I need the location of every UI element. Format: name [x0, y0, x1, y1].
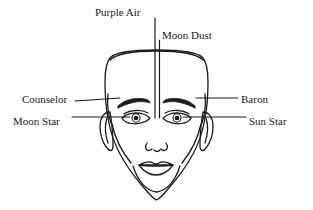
label-baron: Baron: [241, 93, 268, 105]
left-ear-inner: [106, 118, 108, 143]
counselor-pointer: [75, 98, 120, 101]
face-diagram-canvas: Purple Air Moon Dust Counselor Moon Star…: [0, 0, 313, 210]
left-pupil: [134, 116, 137, 119]
right-ear-inner: [205, 118, 207, 143]
right-eyebrow: [163, 98, 195, 108]
chin-contour: [133, 166, 180, 192]
nose-left-nostril: [146, 143, 153, 150]
head-outline: [105, 50, 208, 200]
left-eyebrow: [118, 98, 150, 108]
face-line-drawing: [0, 0, 313, 210]
label-purple-air: Purple Air: [95, 6, 141, 18]
nose-tip: [154, 150, 160, 152]
label-counselor: Counselor: [22, 93, 67, 105]
right-pupil: [175, 116, 178, 119]
upper-lip: [139, 162, 173, 165]
label-sun-star: Sun Star: [249, 115, 287, 127]
nose-right-nostril: [161, 143, 168, 150]
label-moon-dust: Moon Dust: [162, 29, 212, 41]
label-moon-star: Moon Star: [13, 115, 60, 127]
